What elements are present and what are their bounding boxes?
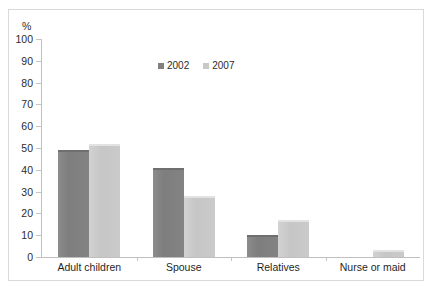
bar-chart: % 1009080706050403020100 2002 2007 Adult… <box>0 0 432 289</box>
bar-2002 <box>247 235 278 257</box>
bar-2007 <box>89 144 120 257</box>
y-axis-tick <box>36 257 41 258</box>
plot-area <box>42 39 420 257</box>
y-axis-tick <box>36 104 41 105</box>
bar-2007 <box>373 250 404 257</box>
y-axis-tick-label: 0 <box>0 252 33 263</box>
y-axis-tick <box>36 148 41 149</box>
x-axis-tick <box>137 257 138 261</box>
bar-2002 <box>153 168 184 257</box>
bar-2007 <box>278 220 309 257</box>
y-axis-tick <box>36 170 41 171</box>
x-axis-tick-label: Adult children <box>42 262 137 273</box>
bar-group <box>326 39 421 257</box>
y-axis-tick-label: 70 <box>0 99 33 110</box>
y-axis-tick <box>36 61 41 62</box>
y-axis-tick-label: 10 <box>0 230 33 241</box>
y-axis-tick-label: 60 <box>0 121 33 132</box>
bar-2007 <box>184 196 215 257</box>
y-axis-tick-label: 80 <box>0 78 33 89</box>
y-axis-tick <box>36 235 41 236</box>
y-axis-tick <box>36 192 41 193</box>
y-axis-tick <box>36 213 41 214</box>
x-axis-tick-label: Relatives <box>231 262 326 273</box>
y-axis-tick <box>36 126 41 127</box>
y-axis-tick-label: 20 <box>0 208 33 219</box>
y-axis-tick-label: 30 <box>0 187 33 198</box>
y-axis-tick-label: 50 <box>0 143 33 154</box>
x-axis-tick-label: Spouse <box>137 262 232 273</box>
bar-group <box>137 39 232 257</box>
x-axis-tick-label: Nurse or maid <box>326 262 421 273</box>
bar-group <box>42 39 137 257</box>
y-axis-tick-label: 100 <box>0 34 33 45</box>
y-axis-tick-label: 90 <box>0 56 33 67</box>
y-axis-tick-label: 40 <box>0 165 33 176</box>
y-axis-tick <box>36 83 41 84</box>
bar-group <box>231 39 326 257</box>
y-axis-tick <box>36 39 41 40</box>
x-axis-tick <box>326 257 327 261</box>
bar-2002 <box>58 150 89 257</box>
x-axis-tick <box>231 257 232 261</box>
y-axis-unit-label: % <box>22 21 31 32</box>
